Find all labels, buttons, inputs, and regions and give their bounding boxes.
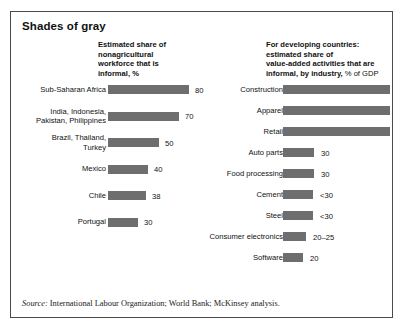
chart-header-line: nonagricultural	[98, 50, 166, 60]
chart-bar	[283, 211, 313, 220]
chart-bar	[283, 232, 306, 241]
chart-row-label: Mexico	[14, 164, 106, 173]
chart-bar	[283, 85, 390, 94]
chart-bar-value: 30	[144, 218, 152, 227]
chart-bar-value: <30	[320, 212, 333, 221]
chart-row-label-line: Brazil, Thailand,	[14, 133, 106, 142]
chart-row-label: Apparel	[178, 106, 283, 115]
chart-row-label-line: Cement	[178, 190, 283, 199]
chart-bar	[108, 218, 138, 227]
chart-row-label-line: Mexico	[14, 164, 106, 173]
chart-row-label: Brazil, Thailand,Turkey	[14, 133, 106, 151]
chart-row-label-line: Construction	[178, 85, 283, 94]
chart-row-label: Construction	[178, 85, 283, 94]
chart-row-label: Portugal	[14, 217, 106, 226]
chart-bar	[108, 112, 179, 121]
chart-row-label-line: India, Indonesia,	[14, 107, 106, 116]
chart-header-line: estimated share of	[266, 50, 379, 60]
chart-bar	[283, 106, 390, 115]
chart-row-label-line: Pakistan, Philippines	[14, 116, 106, 125]
chart-header-suffix: % of GDP	[343, 69, 379, 78]
chart-bar-value: <30	[320, 191, 333, 200]
chart-row-label-line: Consumer electronics	[178, 232, 283, 241]
chart-header-line: For developing countries:	[266, 40, 379, 50]
chart-header-line: Estimated share of	[98, 40, 166, 50]
chart-row-label-line: Portugal	[14, 217, 106, 226]
chart-row-label: Steel	[178, 211, 283, 220]
source-text: International Labour Organization; World…	[48, 299, 280, 308]
chart-bar	[283, 169, 314, 178]
chart-bar-value: 20–25	[313, 233, 334, 242]
chart-header-line: informal, by industry, % of GDP	[266, 69, 379, 79]
chart-header-line: workforce that is	[98, 59, 166, 69]
chart-header-line: value-added activities that are	[266, 59, 379, 69]
chart-row-label: Chile	[14, 191, 106, 200]
chart-bar-value: 50	[165, 139, 173, 148]
chart-bar	[108, 165, 148, 174]
chart-row-label-line: Auto parts	[178, 148, 283, 157]
chart-row-label: India, Indonesia,Pakistan, Philippines	[14, 107, 106, 125]
source-label: Source:	[22, 299, 48, 308]
chart-row-label: Auto parts	[178, 148, 283, 157]
chart-bar-value: 38	[152, 192, 160, 201]
chart-row-label-line: Chile	[14, 191, 106, 200]
chart-bar-value: 30	[321, 149, 329, 158]
source-note: Source: International Labour Organizatio…	[22, 299, 280, 308]
chart-bar	[283, 148, 314, 157]
chart-row-label-line: Retail	[178, 127, 283, 136]
chart-row-label: Sub-Saharan Africa	[14, 85, 106, 94]
chart-row-label: Cement	[178, 190, 283, 199]
chart-bar-value: 20	[310, 254, 318, 263]
chart-header-line: informal, %	[98, 69, 166, 79]
chart-row-label-line: Turkey	[14, 143, 106, 152]
chart-bar-value: 40	[154, 165, 162, 174]
page-title: Shades of gray	[22, 20, 106, 32]
chart-bar	[108, 138, 159, 147]
chart-row-label: Software	[178, 253, 283, 262]
chart-bar	[283, 253, 303, 262]
chart-left-header: Estimated share ofnonagriculturalworkfor…	[98, 40, 166, 78]
chart-bar	[283, 190, 313, 199]
chart-row-label: Retail	[178, 127, 283, 136]
chart-bar-value: 30	[321, 170, 329, 179]
chart-bar	[108, 191, 146, 200]
chart-row-label-line: Apparel	[178, 106, 283, 115]
chart-right-header: For developing countries:estimated share…	[266, 40, 379, 78]
chart-row-label-line: Food processing	[178, 169, 283, 178]
chart-row-label-line: Software	[178, 253, 283, 262]
chart-bar	[283, 127, 390, 136]
chart-row-label: Food processing	[178, 169, 283, 178]
chart-panel: Shades of gray Estimated share ofnonagri…	[10, 11, 393, 318]
chart-row-label-line: Sub-Saharan Africa	[14, 85, 106, 94]
chart-row-label: Consumer electronics	[178, 232, 283, 241]
chart-bar	[108, 85, 189, 94]
chart-row-label-line: Steel	[178, 211, 283, 220]
